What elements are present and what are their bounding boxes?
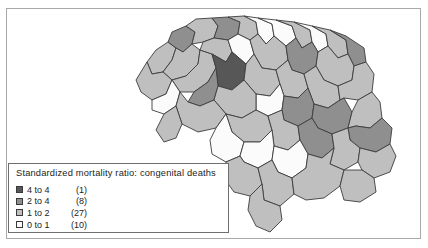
legend-entry-list: 4 to 4 (1) 2 to 4 (8) 1 to 2 (27) 0 to 1…: [16, 184, 216, 230]
map-legend: Standardized mortality ratio: congenital…: [8, 163, 229, 233]
legend-entry: 0 to 1 (10): [16, 219, 216, 231]
legend-title: Standardized mortality ratio: congenital…: [16, 168, 216, 178]
legend-count-label: (10): [61, 220, 87, 230]
legend-count-label: (27): [61, 208, 87, 218]
legend-range-label: 4 to 4: [27, 185, 61, 195]
legend-range-label: 0 to 1: [27, 220, 61, 230]
legend-swatch-0-to-1: [16, 221, 23, 228]
legend-swatch-4-to-4: [16, 186, 23, 193]
legend-entry: 4 to 4 (1): [16, 184, 216, 196]
legend-range-label: 1 to 2: [27, 208, 61, 218]
legend-count-label: (1): [61, 185, 87, 195]
figure-canvas: Standardized mortality ratio: congenital…: [0, 0, 428, 248]
legend-swatch-1-to-2: [16, 209, 23, 216]
legend-swatch-2-to-4: [16, 198, 23, 205]
legend-entry: 1 to 2 (27): [16, 207, 216, 219]
legend-count-label: (8): [61, 196, 87, 206]
legend-range-label: 2 to 4: [27, 196, 61, 206]
legend-entry: 2 to 4 (8): [16, 196, 216, 208]
